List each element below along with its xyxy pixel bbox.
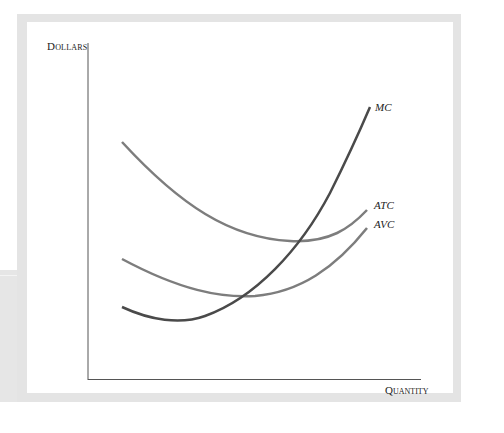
atc-label: ATC bbox=[374, 199, 394, 211]
mc-curve bbox=[122, 107, 370, 321]
avc-label: AVC bbox=[374, 218, 394, 230]
cost-curves-chart bbox=[0, 0, 504, 433]
mc-label: MC bbox=[375, 101, 392, 113]
avc-curve bbox=[122, 228, 367, 296]
x-axis-label: Quantity bbox=[385, 384, 429, 396]
y-axis-label: Dollars bbox=[47, 40, 87, 52]
